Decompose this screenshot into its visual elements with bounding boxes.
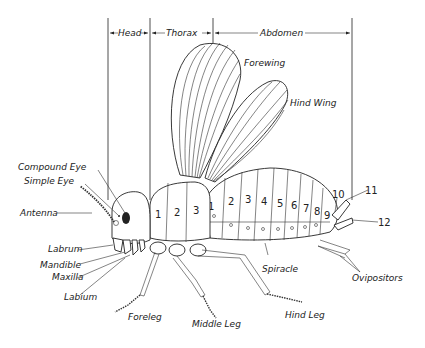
- region-label-abdomen: Abdomen: [259, 28, 303, 38]
- compound-eye-label: Compound Eye: [18, 162, 87, 172]
- spiracle-label: Spiracle: [262, 264, 299, 274]
- thorax-segment-2: 2: [174, 207, 180, 218]
- region-label-head: Head: [118, 28, 142, 38]
- region-label-thorax: Thorax: [166, 28, 198, 38]
- abdomen-segment-10: 10: [332, 189, 345, 200]
- abdomen-segment-8: 8: [314, 206, 320, 217]
- middle-leg: [173, 256, 216, 318]
- abdomen-segment-3: 3: [245, 194, 251, 205]
- abdomen-segment-5: 5: [277, 198, 283, 209]
- thorax-segment-1: 1: [155, 209, 161, 220]
- forewing-label: Forewing: [244, 58, 285, 68]
- middle-leg-label: Middle Leg: [192, 319, 241, 329]
- hind-leg-label: Hind Leg: [285, 310, 325, 320]
- abdomen-segment-9: 9: [324, 210, 330, 221]
- insect-anatomy-diagram: Head Thorax Abdomen Forewing Hind Wing: [0, 0, 425, 348]
- hind-leg: [198, 250, 302, 302]
- abdomen-segment-4: 4: [261, 196, 267, 207]
- maxilla-label: Maxilla: [52, 272, 84, 282]
- abdomen-segment-12: 12: [378, 217, 391, 228]
- abdomen-segment-6: 6: [291, 200, 297, 211]
- simple-eye: [118, 215, 120, 217]
- simple-eye-label: Simple Eye: [24, 176, 75, 186]
- antenna: [80, 186, 114, 222]
- abdomen: [205, 168, 338, 241]
- abdomen-segment-11: 11: [365, 185, 378, 196]
- antenna-label: Antenna: [19, 208, 58, 218]
- labrum-label: Labrum: [48, 244, 83, 254]
- hind-wing-label: Hind Wing: [290, 98, 337, 108]
- thorax-segment-3: 3: [193, 205, 199, 216]
- labium-label: Labium: [64, 292, 97, 302]
- foreleg-label: Foreleg: [128, 312, 162, 322]
- mandible-label: Mandible: [40, 260, 81, 270]
- compound-eye: [122, 212, 130, 224]
- ovipositors-label: Ovipositors: [352, 273, 403, 283]
- abdomen-segment-7: 7: [303, 203, 309, 214]
- abdomen-segment-2: 2: [228, 196, 234, 207]
